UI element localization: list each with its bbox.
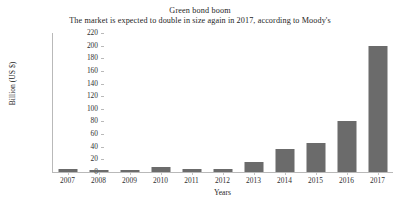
x-axis-tick-mark — [68, 173, 69, 175]
x-axis-ticks: 2007200820092010201120122013201420152016… — [52, 173, 393, 187]
x-axis-tick-mark — [192, 173, 193, 175]
bar[interactable] — [151, 167, 170, 172]
chart-subtitle: The market is expected to double in size… — [0, 16, 400, 26]
page-title: Green bond boom — [0, 6, 400, 16]
x-axis-tick-mark — [316, 173, 317, 175]
bar-slot — [238, 33, 269, 172]
bar[interactable] — [337, 121, 356, 172]
bar[interactable] — [89, 170, 108, 172]
bar-slot — [52, 33, 83, 172]
bar[interactable] — [368, 46, 387, 172]
x-axis-tick-label: 2008 — [83, 176, 114, 185]
x-axis-tick-mark — [378, 173, 379, 175]
x-axis-tick-label: 2015 — [300, 176, 331, 185]
bar-chart: Green bond boom The market is expected t… — [0, 0, 400, 219]
x-axis-tick-label: 2009 — [114, 176, 145, 185]
x-axis-tick-mark — [254, 173, 255, 175]
x-axis-tick-mark — [223, 173, 224, 175]
bar[interactable] — [182, 169, 201, 172]
x-axis-tick-mark — [161, 173, 162, 175]
x-axis-tick-label: 2007 — [52, 176, 83, 185]
bar[interactable] — [306, 143, 325, 172]
bar[interactable] — [58, 169, 77, 172]
x-axis-title: Years — [52, 188, 393, 197]
x-axis-tick-label: 2016 — [331, 176, 362, 185]
bar-slot — [114, 33, 145, 172]
bar[interactable] — [120, 170, 139, 172]
bar-series — [52, 33, 393, 172]
x-axis-tick-label: 2013 — [238, 176, 269, 185]
bar-slot — [362, 33, 393, 172]
bar[interactable] — [275, 149, 294, 172]
x-axis-tick-label: 2010 — [145, 176, 176, 185]
bar[interactable] — [213, 169, 232, 172]
chart-title-block: Green bond boom The market is expected t… — [0, 6, 400, 26]
x-axis-tick-mark — [285, 173, 286, 175]
x-axis-tick-label: 2012 — [207, 176, 238, 185]
bar-slot — [331, 33, 362, 172]
y-axis-title: Billion (US $) — [8, 24, 17, 144]
x-axis-tick-label: 2014 — [269, 176, 300, 185]
x-axis-tick-mark — [99, 173, 100, 175]
x-axis-tick-mark — [130, 173, 131, 175]
x-axis-tick-mark — [347, 173, 348, 175]
bar-slot — [145, 33, 176, 172]
x-axis-tick-label: 2011 — [176, 176, 207, 185]
bar-slot — [269, 33, 300, 172]
x-axis-tick-label: 2017 — [362, 176, 393, 185]
bar-slot — [176, 33, 207, 172]
bar-slot — [207, 33, 238, 172]
bar-slot — [83, 33, 114, 172]
bar[interactable] — [244, 162, 263, 172]
bar-slot — [300, 33, 331, 172]
